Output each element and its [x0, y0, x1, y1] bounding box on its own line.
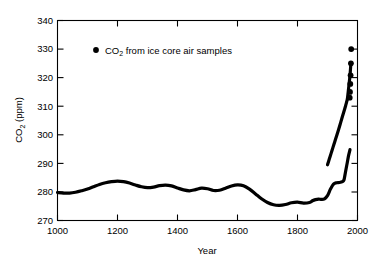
y-tick-label-330: 330	[37, 43, 53, 54]
y-tick-label-300: 300	[37, 129, 53, 140]
data-point-3	[347, 81, 353, 87]
x-axis-tick-labels: 1000 1200 1400 1600 1800 2000	[47, 225, 368, 236]
y-tick-label-310: 310	[37, 101, 53, 112]
x-tick-label-1400: 1400	[167, 225, 188, 236]
chart-legend: CO2 from ice core air samples	[93, 45, 232, 58]
y-tick-label-340: 340	[37, 15, 53, 26]
series-line-0	[58, 150, 351, 206]
x-tick-label-1800: 1800	[287, 225, 308, 236]
y-axis-title-tail: (ppm)	[13, 97, 24, 124]
y-axis-title: CO2 (ppm)	[13, 97, 26, 143]
x-tick-label-1600: 1600	[227, 225, 248, 236]
data-point-1	[348, 60, 354, 66]
x-axis-top-ticks	[118, 21, 298, 27]
x-tick-label-1200: 1200	[107, 225, 128, 236]
x-tick-label-2000: 2000	[347, 225, 368, 236]
x-axis-ticks	[58, 215, 358, 221]
y-tick-label-320: 320	[37, 72, 53, 83]
data-point-4	[347, 89, 353, 95]
data-point-2	[348, 72, 354, 78]
series-line-1	[328, 63, 351, 164]
y-tick-label-290: 290	[37, 158, 53, 169]
y-axis-title-base: CO	[13, 129, 24, 143]
legend-label: CO2 from ice core air samples	[105, 45, 232, 58]
y-tick-label-280: 280	[37, 186, 53, 197]
legend-label-base: CO	[105, 45, 119, 56]
y-axis-tick-labels: 270 280 290 300 310 320 330 340	[37, 15, 53, 226]
data-series-group	[58, 63, 351, 205]
legend-label-tail: from ice core air samples	[123, 45, 232, 56]
svg-text:CO2 (ppm): CO2 (ppm)	[13, 97, 26, 143]
data-points-group	[347, 46, 354, 100]
chart-figure: 270 280 290 300 310 320 330 340 10	[0, 0, 389, 273]
legend-filled-circle-icon	[93, 47, 99, 53]
x-axis-title: Year	[197, 245, 216, 256]
co2-ice-core-line-chart: 270 280 290 300 310 320 330 340 10	[0, 0, 389, 273]
y-axis-ticks	[58, 21, 64, 221]
data-point-0	[348, 46, 354, 52]
data-point-5	[347, 95, 353, 101]
x-tick-label-1000: 1000	[47, 225, 68, 236]
